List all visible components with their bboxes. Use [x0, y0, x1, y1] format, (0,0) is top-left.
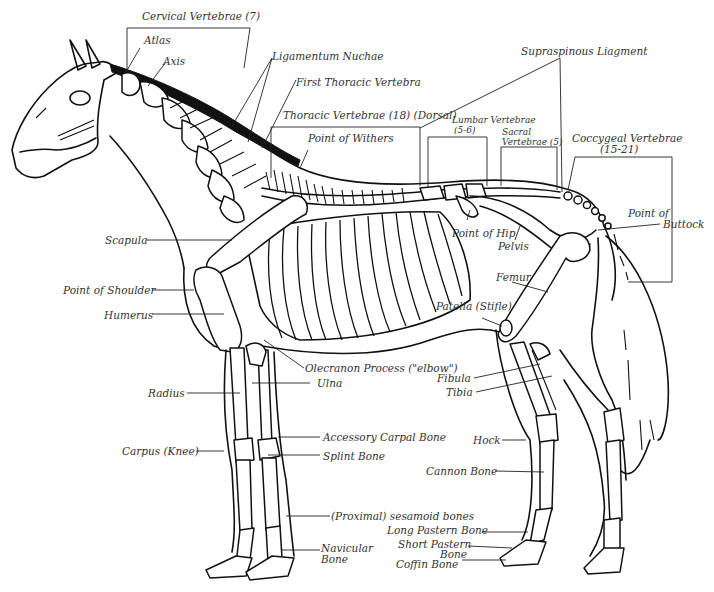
label-cannon-bone: Cannon Bone [426, 465, 497, 477]
label-olecranon-process: Olecranon Process ("elbow") [305, 362, 458, 374]
front-limb [194, 196, 307, 580]
label-thoracic-vertebrae: Thoracic Vertebrae (18) (Dorsal) [283, 109, 457, 121]
label-humerus: Humerus [104, 309, 153, 321]
label-coccygeal-count: (15-21) [600, 143, 638, 155]
label-tibia: Tibia [446, 386, 473, 398]
label-patella: Patella (Stifle) [436, 300, 512, 312]
label-sesamoid-bones: (Proximal) sesamoid bones [331, 510, 474, 522]
label-coffin-bone: Coffin Bone [396, 558, 458, 570]
label-point-of-withers: Point of Withers [308, 132, 394, 144]
hind-limb [496, 233, 624, 574]
label-scapula: Scapula [105, 234, 147, 246]
label-long-pastern-bone: Long Pastern Bone [387, 524, 488, 536]
label-lumbar-count: (5-6) [454, 124, 476, 136]
label-femur: Femur [496, 271, 531, 283]
label-cervical-vertebrae: Cervical Vertebrae (7) [142, 10, 260, 22]
horse-skeleton-illustration [0, 0, 714, 592]
label-pelvis: Pelvis [498, 240, 529, 252]
label-first-thoracic-vertebra: First Thoracic Vertebra [296, 76, 421, 88]
label-ligamentum-nuchae: Ligamentum Nuchae [272, 50, 384, 62]
label-splint-bone: Splint Bone [323, 450, 385, 462]
label-atlas: Atlas [144, 34, 171, 46]
label-point-of-hip: Point of Hip [452, 227, 515, 239]
label-carpus: Carpus (Knee) [122, 445, 199, 457]
label-hock: Hock [473, 434, 501, 446]
label-fibula: Fibula [437, 372, 471, 384]
label-point-of-buttock-2: Buttock [663, 218, 704, 230]
spine [110, 64, 628, 280]
label-radius: Radius [148, 387, 185, 399]
label-supraspinous-ligament: Supraspinous Liagment [521, 45, 647, 57]
label-ulna: Ulna [317, 377, 342, 389]
label-point-of-shoulder: Point of Shoulder [63, 284, 156, 296]
label-navicular-bone-2: Bone [321, 553, 348, 565]
label-axis: Axis [163, 55, 185, 67]
label-sacral-count: Vertebrae (5) [502, 136, 563, 148]
label-accessory-carpal-bone: Accessory Carpal Bone [323, 431, 446, 443]
